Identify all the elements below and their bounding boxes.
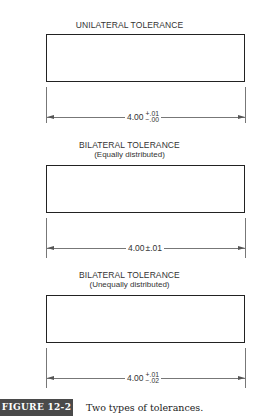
dimension-text: 4.00 ±.01 — [126, 242, 164, 254]
arrowhead-left-icon — [47, 376, 54, 380]
arrowhead-right-icon — [238, 376, 245, 380]
arrowhead-left-icon — [47, 246, 54, 250]
extension-line-right — [245, 87, 246, 123]
lower-tolerance: −.02 — [146, 378, 159, 385]
arrowhead-left-icon — [47, 115, 54, 119]
arrowhead-right-icon — [238, 115, 245, 119]
extension-line-right — [245, 348, 246, 388]
nominal-value: 4.00 — [127, 373, 144, 383]
figure-subtitle: (Unequally distributed) — [0, 280, 259, 290]
tolerance-stack: +.01 −.02 — [146, 372, 159, 385]
extension-line-right — [245, 218, 246, 258]
nominal-value: 4.00 — [127, 112, 144, 122]
part-rectangle — [46, 295, 245, 343]
figure-label: FIGURE 12-2 — [0, 399, 73, 416]
figure-title: UNILATERAL TOLERANCE — [0, 20, 259, 30]
figure-subtitle: (Equally distributed) — [0, 150, 259, 160]
caption-text: Two types of tolerances. — [86, 399, 203, 416]
part-rectangle — [46, 165, 245, 213]
nominal-value: 4.00 — [128, 243, 145, 253]
dimension-text: 4.00 +.01 −.00 — [125, 110, 161, 124]
extension-line-left — [46, 348, 47, 388]
figure-title: BILATERAL TOLERANCE — [0, 140, 259, 150]
arrowhead-right-icon — [238, 246, 245, 250]
figure-caption: FIGURE 12-2 Two types of tolerances. — [0, 399, 259, 416]
part-rectangle — [46, 34, 245, 82]
symmetric-tolerance: ±.01 — [146, 243, 162, 253]
figure-title: BILATERAL TOLERANCE — [0, 270, 259, 280]
dimension-text: 4.00 +.01 −.02 — [125, 371, 161, 385]
lower-tolerance: −.00 — [146, 117, 159, 124]
tolerance-stack: +.01 −.00 — [146, 111, 159, 124]
extension-line-left — [46, 218, 47, 258]
